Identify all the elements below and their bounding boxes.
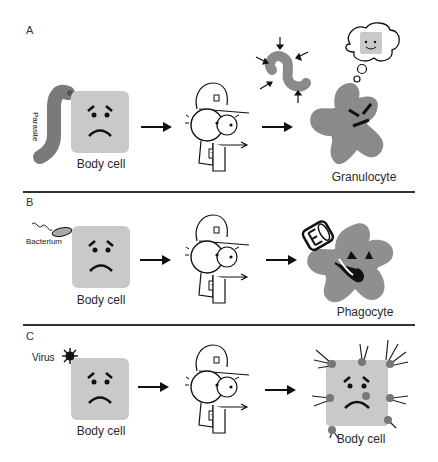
sad-face-icon [71, 358, 129, 420]
body-cell-caption-b: Body cell [70, 293, 132, 307]
panel-label-a: A [26, 24, 33, 36]
right-arrow-icon [266, 255, 298, 265]
panel-label-c: C [26, 330, 34, 342]
body-cell-caption-a: Body cell [70, 157, 132, 171]
divider-b-c [23, 324, 415, 326]
sad-face-icon [72, 226, 130, 288]
infected-body-cell-caption: Body cell [330, 432, 392, 446]
detective-icon: T [183, 73, 253, 173]
panel-label-b: B [26, 196, 33, 208]
granulocyte-caption: Granulocyte [326, 170, 402, 184]
body-cell-a [71, 91, 129, 153]
virus-label: Virus [32, 352, 55, 363]
body-cell-c [71, 358, 129, 420]
sad-face-icon [71, 91, 129, 153]
thought-bubble-icon [340, 22, 404, 84]
phagocyte-caption: Phagocyte [330, 305, 400, 319]
body-cell-caption-c: Body cell [70, 424, 132, 438]
phagocyte-icon [295, 215, 405, 315]
divider-a-b [23, 191, 415, 193]
right-arrow-icon [141, 122, 173, 132]
parasite-label: Parasite [31, 112, 40, 141]
right-arrow-icon [138, 382, 170, 392]
detective-icon: T [183, 335, 253, 435]
detective-icon: T [183, 205, 253, 305]
body-cell-b [72, 226, 130, 288]
virus-burst-icon [310, 340, 410, 440]
right-arrow-icon [265, 385, 297, 395]
right-arrow-icon [262, 122, 294, 132]
bacterium-label: Bacterium [26, 237, 62, 246]
right-arrow-icon [140, 255, 172, 265]
granulocyte-icon [305, 80, 405, 180]
